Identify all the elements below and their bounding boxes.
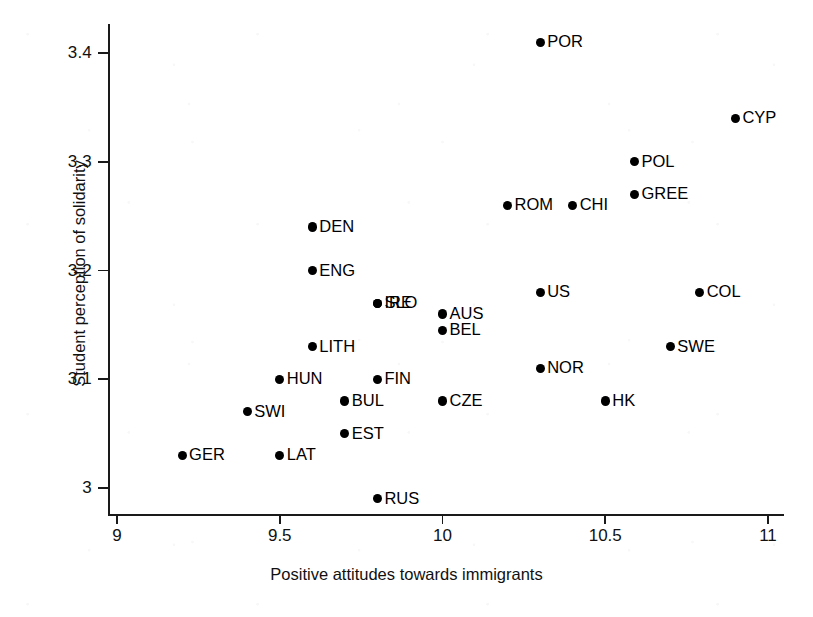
data-point-marker — [503, 201, 512, 210]
y-axis-line — [108, 24, 110, 515]
data-point-label: HK — [612, 392, 635, 409]
data-point-marker — [695, 288, 704, 297]
data-point-marker — [630, 190, 639, 199]
x-axis-line — [108, 514, 784, 516]
data-point-marker — [536, 288, 545, 297]
y-tick-mark — [98, 378, 108, 380]
scatter-plot-figure: 33.13.23.33.4 99.51010.511 PORCYPPOLGREE… — [0, 0, 813, 617]
data-point-marker — [536, 38, 545, 47]
data-point-label: BEL — [450, 321, 481, 338]
y-tick-mark — [98, 52, 108, 54]
data-point-label: RUS — [384, 490, 419, 507]
data-point-label: ENG — [319, 262, 355, 279]
data-point-label: CYP — [742, 109, 776, 126]
x-tick-label: 10.5 — [589, 527, 622, 544]
data-point-label: DEN — [319, 218, 354, 235]
data-point-marker — [340, 396, 349, 405]
data-point-marker — [630, 157, 639, 166]
data-point-label: SWE — [677, 338, 715, 355]
data-point-marker — [373, 375, 382, 384]
data-point-marker — [243, 407, 252, 416]
data-point-label: ROM — [515, 196, 554, 213]
data-point-marker — [178, 451, 187, 460]
data-point-marker — [308, 266, 317, 275]
data-point-marker — [731, 114, 740, 123]
data-point-marker — [536, 364, 545, 373]
data-point-label: FIN — [384, 370, 411, 387]
data-point-label: IRE — [384, 294, 412, 311]
x-tick-mark — [116, 514, 118, 524]
data-point-marker — [275, 451, 284, 460]
x-tick-mark — [604, 514, 606, 524]
data-point-label: CZE — [450, 392, 483, 409]
x-tick-label: 10 — [433, 527, 452, 544]
data-point-marker — [438, 309, 447, 318]
data-point-label: POR — [547, 33, 583, 50]
data-point-marker — [666, 342, 675, 351]
data-point-label: BUL — [352, 392, 384, 409]
y-axis-title: Student perception of solidarity — [70, 64, 89, 484]
data-point-label: LAT — [287, 446, 316, 463]
data-point-label: EST — [352, 425, 384, 442]
data-point-marker — [340, 429, 349, 438]
data-point-marker — [308, 342, 317, 351]
x-tick-label: 9.5 — [268, 527, 292, 544]
y-tick-mark — [98, 161, 108, 163]
data-point-label: GREE — [642, 185, 689, 202]
data-point-marker — [275, 375, 284, 384]
data-point-label: US — [547, 283, 570, 300]
data-point-marker — [438, 326, 447, 335]
x-tick-label: 9 — [112, 527, 121, 544]
y-tick-mark — [98, 270, 108, 272]
data-point-marker — [373, 299, 382, 308]
x-tick-mark — [442, 514, 444, 524]
data-point-label: NOR — [547, 359, 584, 376]
data-point-label: SWI — [254, 403, 285, 420]
data-point-label: POL — [642, 153, 675, 170]
x-tick-label: 11 — [759, 527, 777, 544]
data-point-label: HUN — [287, 370, 323, 387]
data-point-label: CHI — [580, 196, 608, 213]
data-point-marker — [568, 201, 577, 210]
data-point-marker — [308, 222, 317, 231]
data-point-marker — [373, 494, 382, 503]
x-tick-mark — [279, 514, 281, 524]
data-point-label: LITH — [319, 338, 355, 355]
data-point-label: COL — [707, 283, 741, 300]
data-point-marker — [438, 396, 447, 405]
data-point-marker — [601, 396, 610, 405]
x-tick-mark — [767, 514, 769, 524]
x-axis-title: Positive attitudes towards immigrants — [0, 565, 813, 584]
y-tick-label: 3.4 — [68, 44, 92, 61]
data-point-label: GER — [189, 446, 225, 463]
y-tick-mark — [98, 487, 108, 489]
